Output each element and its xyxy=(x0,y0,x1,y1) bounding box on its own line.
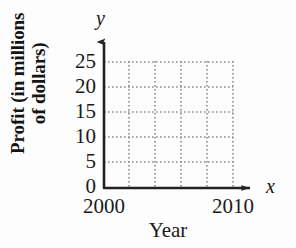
x-axis-title: Year xyxy=(118,218,218,243)
y-axis-variable-label: y xyxy=(96,8,105,28)
coordinate-grid-figure: 25 20 15 10 5 0 2000 2010 y x Profit (in… xyxy=(0,0,296,248)
y-axis-title-line1: Profit (in millions xyxy=(7,3,28,163)
y-tick-label-15: 15 xyxy=(58,101,96,122)
x-tick-label-2000: 2000 xyxy=(64,196,144,217)
vertical-gridlines xyxy=(129,61,233,188)
y-tick-label-25: 25 xyxy=(58,51,96,72)
x-axis-variable-label: x xyxy=(266,176,275,196)
x-tick-label-2010: 2010 xyxy=(193,196,273,217)
y-tick-label-20: 20 xyxy=(58,76,96,97)
horizontal-gridlines xyxy=(104,62,233,162)
y-axis-title: Profit (in millions of dollars) xyxy=(7,3,50,163)
y-tick-label-5: 5 xyxy=(58,151,96,172)
y-axis-title-line2: of dollars) xyxy=(28,3,49,163)
y-tick-label-10: 10 xyxy=(58,126,96,147)
